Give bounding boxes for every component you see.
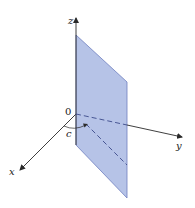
distance-c-label: c xyxy=(66,128,72,139)
vertical-plane xyxy=(76,35,127,198)
3d-plane-diagram: z y x 0 c xyxy=(0,0,195,208)
y-axis-label: y xyxy=(175,140,182,151)
x-axis xyxy=(20,114,76,170)
origin-label: 0 xyxy=(65,106,71,117)
z-axis-label: z xyxy=(67,15,74,26)
y-axis xyxy=(127,125,182,137)
x-axis-label: x xyxy=(9,166,15,177)
